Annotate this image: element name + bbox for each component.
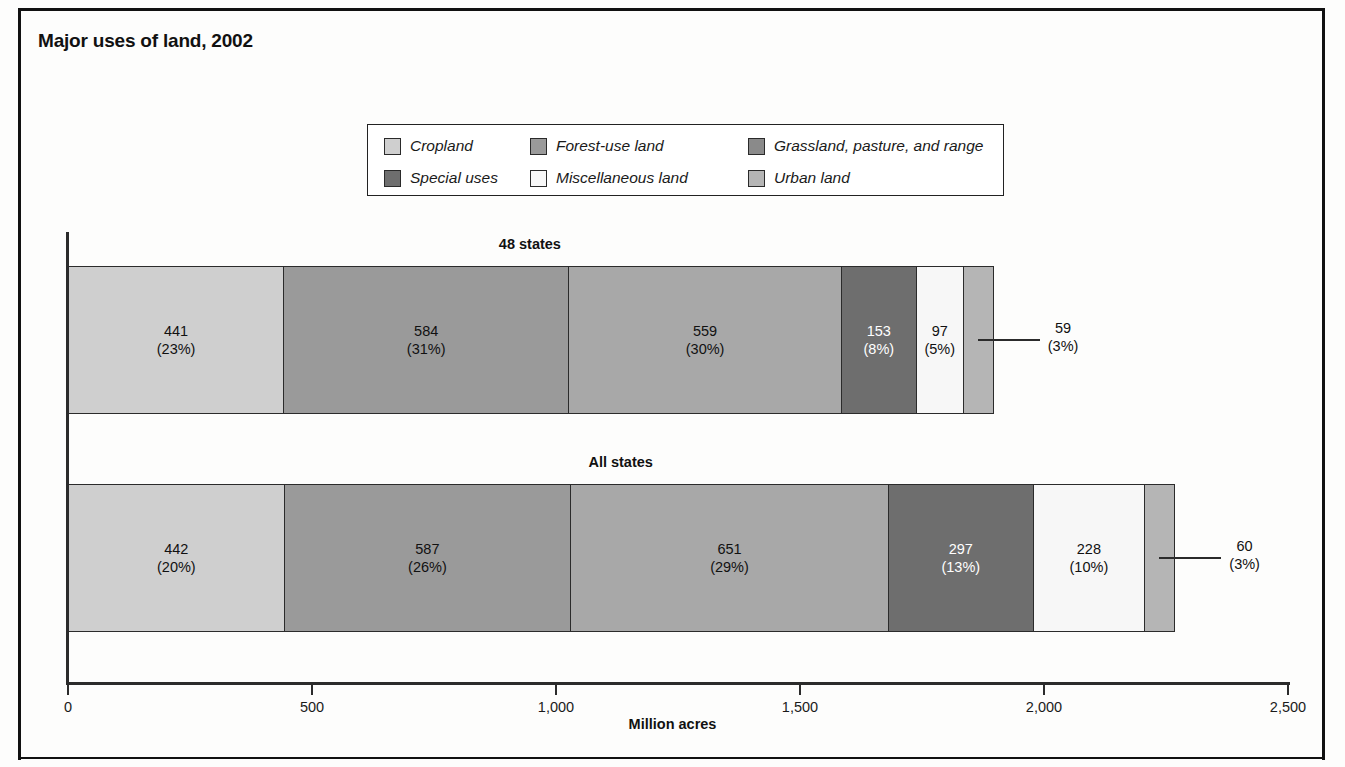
bar-segment-special-uses[interactable]: 297(13%): [889, 485, 1034, 631]
legend-swatch-grassland-pasture-and-range: [748, 138, 765, 155]
segment-label: 559(30%): [686, 322, 725, 358]
callout-leader-line-48-states: [978, 339, 1040, 341]
segment-percent: (31%): [407, 340, 446, 358]
x-tick-mark-2500: [1287, 684, 1289, 695]
chart-page: Major uses of land, 2002 Cropland Forest…: [0, 0, 1345, 767]
segment-value: 559: [686, 322, 725, 340]
legend-item-urban-land: Urban land: [748, 169, 850, 187]
x-tick-label-0: 0: [64, 699, 72, 715]
legend-label-cropland: Cropland: [410, 137, 473, 155]
legend-swatch-urban-land: [748, 170, 765, 187]
segment-value: 441: [157, 322, 196, 340]
chart-title: Major uses of land, 2002: [38, 30, 253, 52]
legend-item-miscellaneous-land: Miscellaneous land: [530, 169, 688, 187]
legend-label-forest-use-land: Forest-use land: [556, 137, 664, 155]
segment-value: 153: [863, 322, 894, 340]
legend-row-1: Cropland Forest-use land Grassland, past…: [368, 131, 1005, 161]
segment-value: 584: [407, 322, 446, 340]
segment-label: 228(10%): [1070, 540, 1109, 576]
segment-percent: (20%): [157, 558, 196, 576]
callout-urban-land-48-states: 59(3%): [1048, 319, 1079, 355]
stacked-bar-48-states[interactable]: 441(23%)584(31%)559(30%)153(8%)97(5%)59(…: [68, 266, 994, 414]
x-tick-mark-2000: [1043, 684, 1045, 695]
callout-value: 60: [1229, 537, 1260, 555]
bar-segment-cropland[interactable]: 441(23%): [69, 267, 284, 413]
bar-segment-miscellaneous-land[interactable]: 228(10%): [1034, 485, 1145, 631]
segment-value: 587: [408, 540, 447, 558]
bar-segment-grassland-pasture-and-range[interactable]: 559(30%): [569, 267, 842, 413]
group-label-48-states: 48 states: [499, 236, 561, 252]
legend-swatch-miscellaneous-land: [530, 170, 547, 187]
x-tick-label-1500: 1,500: [782, 699, 818, 715]
segment-label: 153(8%): [863, 322, 894, 358]
frame-border-right: [1322, 8, 1325, 760]
segment-label: 442(20%): [157, 540, 196, 576]
legend-item-forest-use-land: Forest-use land: [530, 137, 664, 155]
segment-value: 651: [710, 540, 749, 558]
legend-label-miscellaneous-land: Miscellaneous land: [556, 169, 688, 187]
bar-segment-special-uses[interactable]: 153(8%): [842, 267, 917, 413]
segment-label: 97(5%): [924, 322, 955, 358]
group-label-all-states: All states: [588, 454, 652, 470]
legend-swatch-cropland: [384, 138, 401, 155]
callout-percent: (3%): [1229, 555, 1260, 573]
legend-item-cropland: Cropland: [384, 137, 473, 155]
x-axis-title: Million acres: [0, 716, 1345, 732]
stacked-bar-all-states[interactable]: 442(20%)587(26%)651(29%)297(13%)228(10%)…: [68, 484, 1175, 632]
segment-percent: (8%): [863, 340, 894, 358]
segment-percent: (23%): [157, 340, 196, 358]
callout-urban-land-all-states: 60(3%): [1229, 537, 1260, 573]
bar-segment-grassland-pasture-and-range[interactable]: 651(29%): [571, 485, 889, 631]
callout-value: 59: [1048, 319, 1079, 337]
legend-row-2: Special uses Miscellaneous land Urban la…: [368, 163, 1005, 193]
segment-value: 297: [941, 540, 980, 558]
segment-percent: (10%): [1070, 558, 1109, 576]
frame-border-top: [18, 8, 1325, 11]
callout-percent: (3%): [1048, 337, 1079, 355]
x-tick-mark-1500: [799, 684, 801, 695]
x-tick-mark-1000: [555, 684, 557, 695]
x-tick-label-2000: 2,000: [1026, 699, 1062, 715]
legend-swatch-special-uses: [384, 170, 401, 187]
segment-value: 97: [924, 322, 955, 340]
x-tick-mark-500: [311, 684, 313, 695]
x-tick-label-2500: 2,500: [1270, 699, 1306, 715]
legend-item-special-uses: Special uses: [384, 169, 498, 187]
legend-item-grassland-pasture-and-range: Grassland, pasture, and range: [748, 137, 983, 155]
x-tick-mark-0: [67, 684, 69, 695]
chart-legend: Cropland Forest-use land Grassland, past…: [367, 124, 1004, 196]
segment-label: 651(29%): [710, 540, 749, 576]
bar-segment-cropland[interactable]: 442(20%): [69, 485, 285, 631]
bar-segment-forest-use-land[interactable]: 587(26%): [285, 485, 571, 631]
segment-percent: (26%): [408, 558, 447, 576]
callout-leader-line-all-states: [1159, 557, 1221, 559]
legend-label-special-uses: Special uses: [410, 169, 498, 187]
legend-label-grassland-pasture-and-range: Grassland, pasture, and range: [774, 137, 983, 155]
segment-percent: (13%): [941, 558, 980, 576]
segment-label: 587(26%): [408, 540, 447, 576]
segment-label: 297(13%): [941, 540, 980, 576]
x-tick-label-500: 500: [300, 699, 324, 715]
frame-border-left: [18, 8, 21, 760]
x-tick-label-1000: 1,000: [538, 699, 574, 715]
segment-percent: (5%): [924, 340, 955, 358]
segment-value: 442: [157, 540, 196, 558]
frame-border-bottom: [18, 757, 1325, 759]
segment-value: 228: [1070, 540, 1109, 558]
legend-swatch-forest-use-land: [530, 138, 547, 155]
segment-percent: (29%): [710, 558, 749, 576]
segment-label: 584(31%): [407, 322, 446, 358]
x-axis-line: [66, 682, 1290, 685]
bar-segment-miscellaneous-land[interactable]: 97(5%): [917, 267, 964, 413]
segment-percent: (30%): [686, 340, 725, 358]
bar-segment-forest-use-land[interactable]: 584(31%): [284, 267, 569, 413]
legend-label-urban-land: Urban land: [774, 169, 850, 187]
segment-label: 441(23%): [157, 322, 196, 358]
